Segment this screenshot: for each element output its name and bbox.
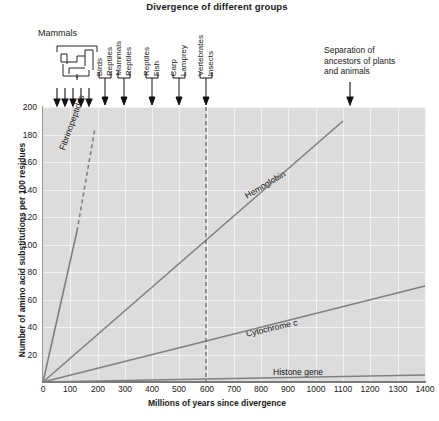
divergence-annotation-band: Mammals	[0, 0, 434, 107]
divergence-label: Lamprey	[179, 45, 188, 76]
mammals-group-label: Mammals	[38, 28, 77, 38]
divergence-label: Insects	[206, 51, 215, 76]
divergence-label: Vertebrates	[196, 35, 205, 76]
y-axis-line	[42, 106, 43, 383]
divergence-label: Birds	[95, 58, 104, 76]
divergence-label: Reptiles	[124, 47, 133, 76]
separation-event-label: Separation of ancestors of plants and an…	[324, 45, 424, 77]
y-axis-title: Number of amino acid substitutions per 1…	[17, 110, 27, 390]
plot-area	[43, 107, 425, 382]
x-axis-line	[42, 381, 426, 383]
divergence-label: Carp	[169, 59, 178, 76]
divergence-label: Reptiles	[142, 47, 151, 76]
x-tick-label: 1400	[405, 384, 439, 394]
divergence-label: Reptiles	[105, 47, 114, 76]
divergence-label: Mammals	[114, 41, 123, 76]
divergence-label: Fish	[152, 61, 161, 76]
x-axis-title: Millions of years since divergence	[0, 398, 434, 408]
mammals-cladogram-icon	[55, 42, 99, 88]
series-label-histone-gene: Histone gene	[273, 367, 323, 377]
